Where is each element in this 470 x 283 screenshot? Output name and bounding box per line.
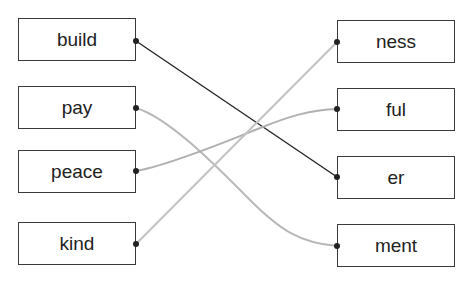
word-box-kind[interactable]: kind: [18, 222, 136, 265]
connector-dot[interactable]: [133, 168, 139, 174]
connector-dot[interactable]: [133, 38, 139, 44]
word-box-build[interactable]: build: [18, 18, 136, 61]
line-kind-ness: [136, 42, 337, 244]
connector-dot[interactable]: [334, 243, 340, 249]
line-pay-ment: [136, 108, 337, 246]
suffix-label: ment: [375, 235, 417, 257]
suffix-box-ful[interactable]: ful: [337, 88, 455, 131]
connector-dot[interactable]: [334, 39, 340, 45]
suffix-label: ness: [376, 31, 416, 53]
word-label: peace: [51, 161, 103, 183]
word-box-peace[interactable]: peace: [18, 150, 136, 193]
word-box-pay[interactable]: pay: [18, 86, 136, 129]
word-label: kind: [60, 233, 95, 255]
line-build-er: [136, 41, 337, 177]
connector-dot[interactable]: [334, 106, 340, 112]
connector-dot[interactable]: [133, 105, 139, 111]
suffix-box-ness[interactable]: ness: [337, 20, 455, 63]
suffix-box-ment[interactable]: ment: [337, 224, 455, 267]
connector-dot[interactable]: [133, 241, 139, 247]
line-peace-ful: [136, 109, 337, 171]
word-label: pay: [62, 97, 93, 119]
word-label: build: [57, 29, 97, 51]
connector-dot[interactable]: [334, 174, 340, 180]
suffix-label: ful: [386, 99, 406, 121]
suffix-box-er[interactable]: er: [337, 156, 455, 199]
suffix-label: er: [388, 167, 405, 189]
